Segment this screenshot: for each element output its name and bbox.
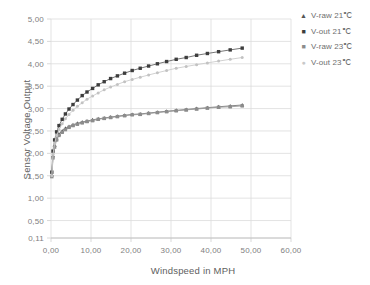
y-tick-label: 2,50 [28,127,45,136]
legend-item-1[interactable]: ■V-out 21℃ [299,24,370,40]
data-point [229,105,232,108]
legend-item-2[interactable]: ■V-raw 23℃ [299,39,370,55]
data-point [147,73,150,76]
data-point [229,58,232,61]
legend-marker-icon: ▲ [299,12,308,19]
data-point [72,109,75,112]
legend-marker-icon: ● [299,59,308,66]
legend-label: V-raw 21℃ [311,11,352,20]
series-curve [52,106,242,177]
legend-marker-icon: ■ [299,28,308,35]
y-tick-label: 3,50 [28,82,45,91]
data-point [50,174,53,177]
data-point [103,88,106,91]
data-point [147,64,150,67]
data-point [217,50,220,53]
data-point [61,118,64,121]
data-point [109,116,112,119]
data-point [139,113,142,116]
data-point [123,80,126,83]
data-point [58,128,61,131]
legend-label: V-out 23℃ [311,58,351,67]
data-point [71,103,74,106]
data-point [61,122,64,125]
data-point [156,71,159,74]
data-point [206,61,209,64]
data-point [217,60,220,63]
data-point [97,83,100,86]
data-point [123,114,126,117]
data-point [206,52,209,55]
legend-marker-icon: ■ [299,43,308,50]
data-point [64,112,67,115]
legend-item-3[interactable]: ●V-out 23℃ [299,55,370,71]
data-point [131,78,134,81]
data-series-group [50,46,244,178]
data-point [76,123,79,126]
x-tick-label: 40,00 [200,246,221,255]
x-tick-label: 0,00 [43,246,60,255]
series-curve [52,105,242,175]
data-point [185,56,188,59]
y-axis-ticks: 0,110,501,001,502,002,503,003,504,004,50… [28,15,45,243]
data-point [97,91,100,94]
data-point [61,131,64,134]
x-tick-label: 60,00 [280,246,301,255]
data-point [147,112,150,115]
data-point [81,121,84,124]
data-point [91,87,94,90]
legend-label: V-raw 23℃ [311,42,352,51]
data-point [116,74,119,77]
data-point [195,54,198,57]
data-point [175,109,178,112]
data-point [103,80,106,83]
y-tick-label: 4,00 [28,60,45,69]
data-point [195,107,198,110]
data-point [175,58,178,61]
y-tick-label: 3,00 [28,105,45,114]
data-point [185,65,188,68]
y-tick-label: 1,00 [28,194,45,203]
series-3 [50,56,243,177]
data-point [185,108,188,111]
x-tick-label: 30,00 [160,246,181,255]
data-point [139,67,142,70]
data-point [64,117,67,120]
data-point [81,101,84,104]
x-tick-label: 20,00 [120,246,141,255]
data-point [165,60,168,63]
y-tick-label: 0,11 [28,234,44,243]
chart-legend: ▲V-raw 21℃■V-out 21℃■V-raw 23℃●V-out 23℃ [299,8,370,70]
data-point [116,83,119,86]
data-point [67,126,70,129]
data-point [156,111,159,114]
data-point [175,67,178,70]
data-point [67,107,70,110]
data-point [86,98,89,101]
series-2 [50,104,244,178]
data-point [76,98,79,101]
data-point [195,63,198,66]
data-point [71,124,74,127]
y-tick-label: 1,50 [28,172,45,181]
legend-item-0[interactable]: ▲V-raw 21℃ [299,8,370,24]
data-point [165,110,168,113]
data-point [68,113,71,116]
data-point [55,134,58,137]
data-point [91,95,94,98]
data-point [109,77,112,80]
series-curve [52,58,242,176]
data-point [85,120,88,123]
data-point [85,90,88,93]
y-tick-label: 2,00 [28,149,45,158]
data-point [97,118,100,121]
data-point [241,56,244,59]
x-tick-label: 10,00 [80,246,101,255]
data-point [165,69,168,72]
grid-lines [47,19,291,242]
data-point [52,153,55,156]
data-point [241,104,244,107]
data-point [76,105,79,108]
y-tick-label: 4,50 [28,37,45,46]
data-point [156,62,159,65]
